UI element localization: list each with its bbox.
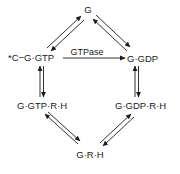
reaction-cycle-diagram: G *C−G·GTP G·GDP G·GTP·R·H G·GDP·R·H G·R…: [0, 0, 180, 174]
edge-label-gtpase: GTPase: [70, 47, 103, 57]
arrow-down-icon: [48, 112, 80, 141]
arrow-up-icon: [47, 16, 81, 48]
arrow-pair-bottom-right: [100, 114, 134, 146]
node-g: G: [84, 4, 91, 15]
node-c-g-gtp: *C−G·GTP: [8, 52, 54, 63]
node-g-gtp-r-h: G·GTP·R·H: [17, 100, 67, 111]
node-g-gdp-r-h: G·GDP·R·H: [115, 100, 166, 111]
arrow-down-icon: [103, 117, 134, 146]
arrow-up-icon: [45, 114, 78, 144]
arrow-pair-g-ggdp: [93, 15, 130, 51]
arrow-up-icon: [100, 114, 131, 143]
arrow-pair-bottom-left: [45, 112, 80, 144]
arrow-pair-cggtp-g: [47, 16, 84, 51]
arrow-pair-left-vertical: [40, 66, 44, 97]
arrow-down-icon: [96, 15, 130, 47]
arrow-pair-right-vertical: [135, 66, 139, 97]
node-g-r-h: G·R·H: [76, 149, 104, 160]
node-g-gdp: G·GDP: [127, 53, 158, 64]
